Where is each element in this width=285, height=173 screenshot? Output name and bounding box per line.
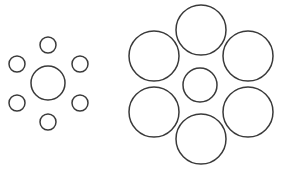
left-surround-circle-3 <box>72 56 88 72</box>
ebbinghaus-diagram <box>0 0 285 173</box>
left-surround-circle-5 <box>72 95 88 111</box>
left-center-circle <box>31 66 65 100</box>
left-circle-group <box>9 37 88 130</box>
left-surround-circle-4 <box>9 95 25 111</box>
right-surround-circle-6 <box>176 114 226 164</box>
right-surround-circle-1 <box>176 5 226 55</box>
right-surround-circle-5 <box>223 87 273 137</box>
right-surround-circle-2 <box>129 31 179 81</box>
left-surround-circle-2 <box>9 56 25 72</box>
right-center-circle <box>183 68 217 102</box>
right-surround-circle-3 <box>223 31 273 81</box>
left-surround-circle-1 <box>40 37 56 53</box>
right-circle-group <box>129 5 273 164</box>
right-surround-circle-4 <box>129 87 179 137</box>
left-surround-circle-6 <box>40 114 56 130</box>
